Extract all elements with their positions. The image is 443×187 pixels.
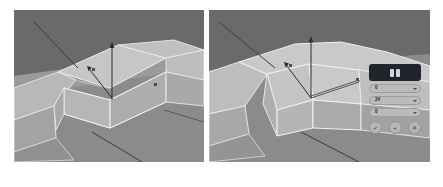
field-value-2: 24	[375, 98, 380, 103]
chevron-down-icon[interactable]	[413, 88, 417, 90]
check-icon: ✓	[370, 122, 381, 133]
plus-icon: +	[390, 122, 401, 133]
figure-container: 0 24 0 ✓ +	[0, 0, 443, 187]
viewport-left-canvas[interactable]	[14, 10, 204, 162]
close-icon: ✕	[409, 122, 420, 133]
viewport-right-canvas[interactable]: 0 24 0 ✓ +	[209, 10, 430, 162]
action-button-row: ✓ + ✕	[369, 121, 421, 134]
field-row-1[interactable]: 0	[369, 84, 421, 93]
scene-left	[14, 10, 204, 162]
chevron-down-icon[interactable]	[413, 112, 417, 114]
viewport-right[interactable]: 0 24 0 ✓ +	[209, 10, 430, 162]
header-swatch-icon	[396, 69, 400, 77]
field-row-3[interactable]: 0	[369, 108, 421, 117]
transform-control-panel[interactable]: 0 24 0 ✓ +	[369, 64, 421, 134]
viewport-left[interactable]	[14, 10, 204, 162]
chevron-down-icon[interactable]	[413, 100, 417, 102]
panel-header	[369, 64, 421, 81]
field-value-1: 0	[375, 86, 378, 91]
header-swatch-icon	[390, 69, 394, 77]
field-row-2[interactable]: 24	[369, 96, 421, 105]
confirm-button[interactable]: ✓	[369, 121, 382, 134]
add-button[interactable]: +	[389, 121, 402, 134]
cancel-button[interactable]: ✕	[408, 121, 421, 134]
field-value-3: 0	[375, 110, 378, 115]
